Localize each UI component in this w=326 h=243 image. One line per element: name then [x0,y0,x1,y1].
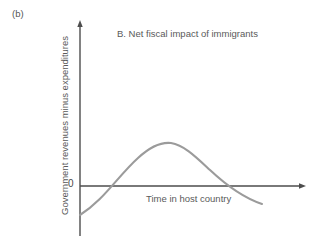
net-fiscal-impact-curve [80,143,262,215]
figure-panel-b: (b) B. Net fiscal impact of immigrants G… [0,0,326,243]
x-axis-arrowhead [299,183,306,188]
y-axis-arrowhead [77,20,82,27]
plot-area [0,0,326,243]
